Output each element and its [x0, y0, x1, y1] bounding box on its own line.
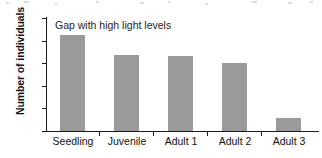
chart-figure: Number of individuals 150 120 90 60 30 0… [0, 0, 322, 158]
bar-adult-3 [276, 118, 301, 131]
bar-seedling [60, 35, 85, 131]
y-axis-title: Number of individuals [14, 0, 26, 126]
bar-adult-2 [222, 63, 247, 131]
plot-area: Gap with high light levels [46, 18, 314, 131]
x-tick-label-seedling: Seedling [46, 135, 100, 148]
y-tick-mark-0 [42, 131, 46, 132]
y-tick-mark-120 [42, 41, 46, 42]
y-tick-mark-150 [42, 18, 46, 19]
x-tick-label-adult-3: Adult 3 [262, 135, 316, 148]
plot-annotation-gap-light: Gap with high light levels [55, 19, 171, 31]
x-axis-tick-labels: Seedling Juvenile Adult 1 Adult 2 Adult … [46, 135, 318, 153]
x-tick-label-juvenile: Juvenile [100, 135, 154, 148]
x-tick-label-adult-2: Adult 2 [208, 135, 262, 148]
y-tick-mark-90 [42, 63, 46, 64]
y-tick-mark-30 [42, 108, 46, 109]
bar-adult-1 [168, 56, 193, 131]
bar-juvenile [114, 55, 139, 131]
x-tick-label-adult-1: Adult 1 [154, 135, 208, 148]
y-tick-mark-60 [42, 86, 46, 87]
scan-artifact-strip [0, 0, 322, 9]
x-axis-line [42, 131, 319, 132]
y-axis-line [46, 17, 47, 132]
